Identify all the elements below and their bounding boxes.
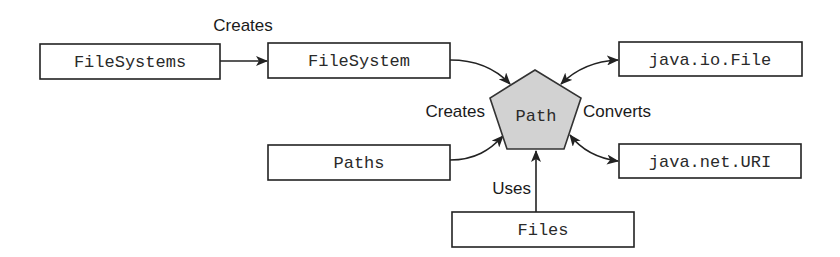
node-path-label: Path (516, 107, 557, 126)
node-paths: Paths (268, 145, 450, 180)
edge-label-converts: Converts (583, 102, 651, 121)
node-paths-label: Paths (333, 154, 384, 173)
node-java-io-file-label: java.io.File (649, 51, 771, 70)
node-java-net-uri: java.net.URI (619, 144, 801, 178)
path-relationship-diagram: FileSystems FileSystem java.io.File Path… (0, 0, 840, 257)
arrow-path-java-net-uri (570, 135, 618, 161)
arrow-filesystem-to-path (450, 60, 510, 84)
edge-label-creates-top: Creates (213, 16, 273, 35)
arrow-paths-to-path (450, 136, 503, 160)
node-filesystems-label: FileSystems (74, 53, 186, 72)
node-java-net-uri-label: java.net.URI (649, 153, 771, 172)
arrow-path-java-io-file (561, 60, 618, 84)
node-filesystem: FileSystem (268, 43, 450, 78)
node-files: Files (452, 212, 634, 247)
edge-label-creates-left: Creates (425, 102, 485, 121)
node-java-io-file: java.io.File (619, 42, 802, 76)
node-path: Path (490, 70, 581, 149)
node-files-label: Files (517, 221, 568, 240)
edge-label-uses: Uses (492, 179, 531, 198)
node-filesystems: FileSystems (40, 44, 220, 79)
node-filesystem-label: FileSystem (308, 52, 410, 71)
